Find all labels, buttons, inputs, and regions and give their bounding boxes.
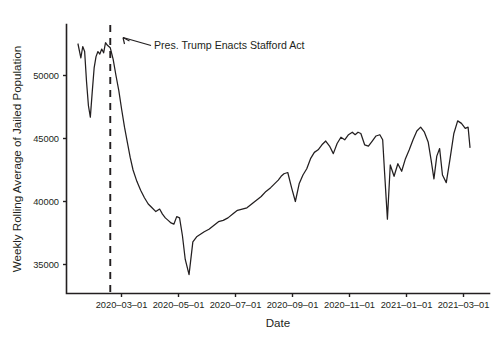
x-tick-label: 2020–11–01: [324, 300, 375, 310]
x-tick-label: 2020–03–01: [96, 300, 148, 310]
y-tick-label: 35000: [33, 260, 59, 270]
x-tick-label: 2020–05–01: [153, 300, 205, 310]
x-axis-title: Date: [266, 316, 291, 329]
x-tick-label: 2021–01–01: [381, 300, 433, 310]
chart-figure: 50000 45000 40000 35000 2020–03–01 2020–…: [0, 0, 501, 337]
x-tick-label: 2020–09–01: [267, 300, 319, 310]
x-tick-label: 2021–03–01: [438, 300, 490, 310]
y-tick-label: 40000: [33, 197, 59, 207]
y-tick-label: 50000: [33, 71, 59, 81]
x-axis-tick-labels: 2020–03–01 2020–05–01 2020–07–01 2020–09…: [96, 300, 490, 310]
jailed-population-line-chart: 50000 45000 40000 35000 2020–03–01 2020–…: [0, 0, 501, 337]
y-tick-label: 45000: [33, 134, 59, 144]
x-tick-label: 2020–07–01: [210, 300, 262, 310]
stafford-act-annotation-label: Pres. Trump Enacts Stafford Act: [154, 39, 305, 51]
y-axis-title: Weekly Rolling Average of Jailed Populat…: [10, 46, 23, 272]
